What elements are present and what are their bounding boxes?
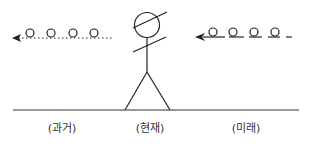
figure-right-leg [147,72,170,110]
future-solid-arrow-icon [195,28,292,41]
past-dotted-arrow-icon [12,29,112,42]
figure-left-leg [125,72,147,110]
label-past: (과거) [48,119,77,135]
label-present: (현재) [136,119,165,135]
label-future: (미래) [232,119,261,135]
head-slash-line [133,12,167,28]
stick-figure-icon [125,12,170,110]
figure-arm-line [133,37,166,52]
